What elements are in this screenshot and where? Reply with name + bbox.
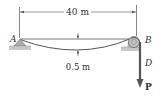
arrow-left-icon [20, 11, 24, 13]
arrow-up-icon [77, 50, 79, 54]
sag-dimension [77, 33, 79, 56]
ground-a [9, 46, 31, 50]
span-label: 40 m [66, 7, 89, 17]
arrow-down-icon [77, 36, 79, 40]
force-label: P [145, 82, 152, 92]
pulley-icon [129, 37, 140, 48]
cable [20, 39, 131, 51]
point-d-label: D [144, 58, 152, 68]
point-b-label: B [144, 35, 152, 45]
ground-b [121, 47, 141, 51]
arrow-right-icon [132, 11, 136, 13]
sag-label: 0.5 m [66, 62, 90, 72]
point-a-label: A [9, 34, 17, 44]
cable-diagram: 40 m 0.5 m A B D P [0, 0, 167, 100]
force-arrow-icon [137, 79, 144, 88]
